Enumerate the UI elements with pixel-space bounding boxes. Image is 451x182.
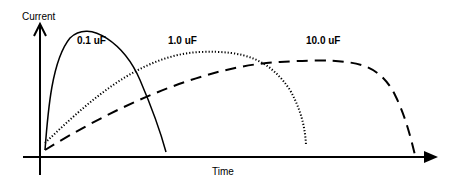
- curve-1-0uF: [45, 52, 306, 145]
- curve-10-0uF: [45, 61, 415, 156]
- capacitor-current-diagram: Current Time 0.1 uF 1.0 uF 10.0 uF: [0, 0, 451, 182]
- x-axis-label: Time: [212, 166, 234, 177]
- label-1-0uF: 1.0 uF: [168, 35, 197, 46]
- diagram-canvas: [0, 0, 451, 182]
- label-10-0uF: 10.0 uF: [306, 35, 340, 46]
- x-axis-arrow-icon: [424, 151, 438, 163]
- label-0-1uF: 0.1 uF: [77, 35, 106, 46]
- curve-0-1uF: [45, 31, 166, 152]
- y-axis-label: Current: [22, 11, 55, 22]
